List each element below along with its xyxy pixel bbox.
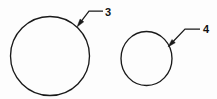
large-circle	[11, 17, 90, 96]
callout-4-label: 4	[203, 23, 210, 35]
callout-3-label: 3	[105, 6, 111, 18]
line-drawing-svg: 3 4	[0, 0, 217, 99]
figure-canvas: 3 4	[0, 0, 217, 99]
callout-3: 3	[77, 6, 111, 27]
small-circle	[121, 32, 172, 86]
callout-3-leader-line	[80, 11, 103, 23]
callout-4-leader-line	[171, 29, 200, 43]
callout-4: 4	[168, 23, 210, 47]
